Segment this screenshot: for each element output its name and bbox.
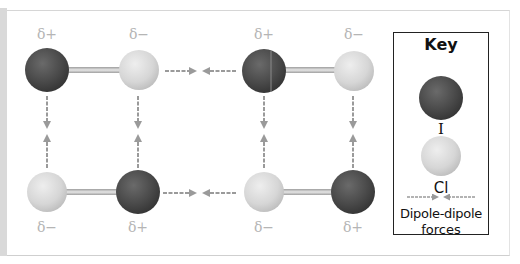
iodine-atom xyxy=(331,170,375,214)
iodine-atom xyxy=(242,49,286,93)
partial-charge-label: δ− xyxy=(129,26,149,42)
chlorine-atom xyxy=(27,172,67,212)
partial-charge-label: δ+ xyxy=(37,26,57,42)
force-legend-label: Dipole-dipole xyxy=(394,206,488,221)
chlorine-atom xyxy=(334,51,374,91)
iodine-atom xyxy=(25,48,69,92)
partial-charge-label: δ− xyxy=(344,26,364,42)
iodine-legend-icon xyxy=(419,76,463,120)
chlorine-atom xyxy=(244,172,284,212)
iodine-atom xyxy=(116,170,160,214)
chlorine-legend-icon xyxy=(421,136,461,176)
partial-charge-label: δ+ xyxy=(343,219,363,235)
chlorine-atom xyxy=(119,50,159,90)
partial-charge-label: δ+ xyxy=(254,26,274,42)
iodine-legend-label: I xyxy=(394,120,488,138)
legend-key: Key I Cl Dipole-dipole forces xyxy=(393,32,489,235)
dipole-force-arrows xyxy=(47,71,353,193)
chlorine-legend-label: Cl xyxy=(394,179,488,197)
bond-top-right xyxy=(277,67,343,73)
force-legend-label-line2: forces xyxy=(394,222,488,237)
bond-top-left xyxy=(60,67,128,73)
partial-charge-label: δ− xyxy=(37,219,57,235)
partial-charge-label: δ− xyxy=(254,219,274,235)
partial-charge-label: δ+ xyxy=(128,219,148,235)
